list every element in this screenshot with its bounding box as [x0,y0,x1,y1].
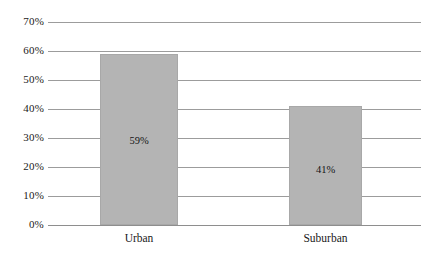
y-axis-tick-label: 20% [0,161,44,172]
bar-urban[interactable]: 59% [100,54,178,225]
y-axis-tick-label: 10% [0,190,44,201]
y-axis-tick-label: 50% [0,74,44,85]
y-axis-tick-label: 70% [0,16,44,27]
y-axis-tick-label: 0% [0,219,44,230]
gridline-60 [48,51,421,52]
axis-baseline [48,225,421,226]
bar-value-label-suburban: 41% [290,164,361,175]
y-axis: 70% 60% 50% 40% 30% 20% 10% 0% [0,0,44,254]
bar-suburban[interactable]: 41% [289,106,362,225]
x-axis-category-label-suburban: Suburban [289,231,362,245]
y-axis-tick-label: 40% [0,103,44,114]
gridline-70 [48,22,421,23]
plot-area: 59% 41% [48,22,421,225]
bar-chart: 70% 60% 50% 40% 30% 20% 10% 0% 59% 41% U… [0,0,433,254]
y-axis-tick-label: 60% [0,45,44,56]
y-axis-tick-label: 30% [0,132,44,143]
x-axis-category-label-urban: Urban [100,231,178,245]
bar-value-label-urban: 59% [101,135,177,146]
